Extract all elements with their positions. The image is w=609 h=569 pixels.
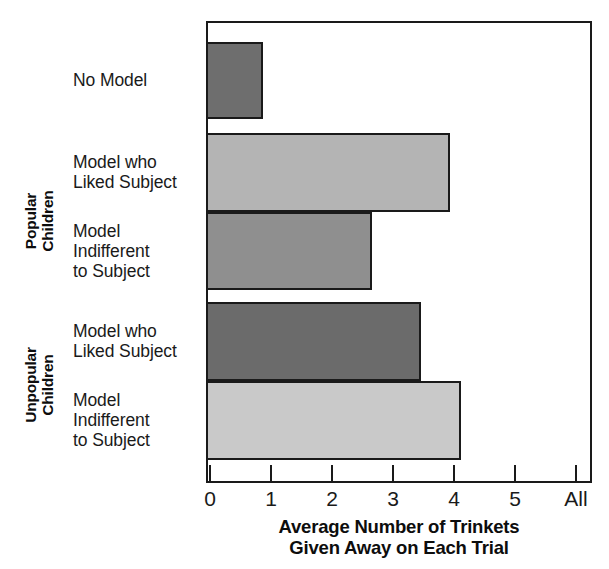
category-label-popular-model-indifferent: Model Indifferent to Subject [73,221,150,281]
plot-frame [206,21,592,483]
x-tick-label-1: 1 [249,487,293,511]
x-tick-1 [270,465,272,481]
x-tick-3 [392,465,394,481]
x-tick-4 [453,465,455,481]
category-label-no-model: No Model [73,70,147,90]
bar-chart: No Model Model who Liked Subject Model I… [0,0,609,569]
x-tick-label-5: 5 [493,487,537,511]
x-tick-label-0: 0 [188,487,232,511]
x-tick-5 [514,465,516,481]
x-tick-2 [331,465,333,481]
x-tick-label-2: 2 [310,487,354,511]
category-label-unpopular-model-indifferent: Model Indifferent to Subject [73,390,150,450]
x-tick-label-4: 4 [432,487,476,511]
x-tick-0 [209,465,211,481]
x-tick-all [575,465,577,481]
group-label-unpopular-children: Unpopular Children [22,310,56,460]
group-label-popular-children: Popular Children [22,146,56,296]
category-label-popular-model-liked: Model who Liked Subject [73,152,177,192]
x-axis-title: Average Number of Trinkets Given Away on… [206,516,592,558]
category-label-unpopular-model-liked: Model who Liked Subject [73,321,177,361]
x-tick-label-3: 3 [371,487,415,511]
x-tick-label-all: All [554,487,598,511]
